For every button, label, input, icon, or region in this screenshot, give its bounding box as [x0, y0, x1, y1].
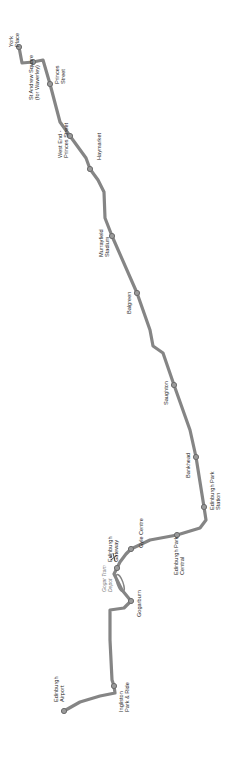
tram-stop-marker [47, 81, 52, 86]
tram-stop-marker [128, 546, 133, 551]
tram-stop-marker [109, 233, 114, 238]
stop-label: Edinburgh ParkStation [209, 471, 221, 510]
depot-label: Gogar Tram Depot [101, 564, 113, 592]
tram-stop-marker [87, 166, 92, 171]
stop-label: EdinburghAirport [53, 676, 65, 702]
tram-stop-marker [128, 598, 133, 603]
stop-label: West End -Princes Street [57, 122, 69, 158]
stop-label: Gogarburn [136, 590, 142, 617]
tram-stop-marker [134, 290, 139, 295]
stop-label: Saughton [163, 381, 169, 405]
tram-route-map: YorkPlaceSt Andrew Square(for Waverley)P… [0, 0, 232, 764]
tram-stop-marker [193, 454, 198, 459]
stop-label: PrincesStreet [54, 65, 66, 84]
stop-label: InglistonPark & Ride [118, 682, 130, 712]
tram-route-line [19, 47, 206, 711]
stop-label: YorkPlace [8, 33, 20, 47]
tram-stop-marker [114, 565, 119, 570]
tram-stop-marker [171, 382, 176, 387]
stop-label: EdinburghGateway [107, 536, 119, 562]
tram-stop-marker [201, 504, 206, 509]
tram-stop-marker [61, 708, 66, 713]
stop-label: Edinburgh ParkCentral [173, 536, 185, 575]
stop-label: Bankhead [185, 453, 191, 478]
tram-stop-marker [111, 683, 116, 688]
stop-label: Gyle Centre [138, 518, 144, 548]
stop-label: Balgreen [126, 292, 132, 314]
stop-label: MurrayfieldStadium [98, 229, 110, 257]
stop-label: Haymarket [96, 133, 102, 160]
